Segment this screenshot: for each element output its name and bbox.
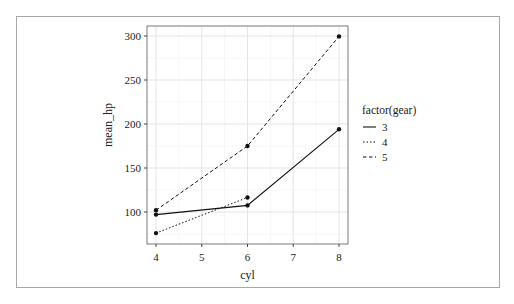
point-gear5-cyl8: [337, 34, 341, 38]
x-tick-label: 4: [153, 251, 159, 263]
y-tick-label: 200: [125, 118, 142, 130]
legend-title: factor(gear): [362, 104, 416, 117]
point-gear3-cyl4: [154, 212, 158, 216]
y-tick-label: 150: [125, 162, 142, 174]
x-tick-label: 7: [291, 251, 297, 263]
point-gear4-cyl6: [245, 195, 249, 199]
x-tick-label: 6: [245, 251, 251, 263]
x-axis-title: cyl: [240, 268, 255, 282]
x-tick-label: 8: [336, 251, 342, 263]
point-gear3-cyl6: [245, 203, 249, 207]
line-chart: 4 5 6 7 8 100 150 200 250 300 cyl mean_h…: [0, 0, 514, 304]
y-axis-title: mean_hp: [101, 103, 115, 147]
legend-label: 4: [382, 136, 388, 148]
legend-label: 5: [382, 151, 388, 163]
point-gear4-cyl4: [154, 231, 158, 235]
point-gear5-cyl4: [154, 208, 158, 212]
legend: factor(gear) 3 4 5: [362, 104, 416, 163]
x-tick-label: 5: [199, 251, 205, 263]
point-gear3-cyl8: [337, 127, 341, 131]
y-tick-label: 100: [125, 206, 142, 218]
point-gear5-cyl6: [245, 144, 249, 148]
legend-label: 3: [382, 121, 388, 133]
y-tick-label: 250: [125, 74, 142, 86]
y-tick-label: 300: [125, 30, 142, 42]
